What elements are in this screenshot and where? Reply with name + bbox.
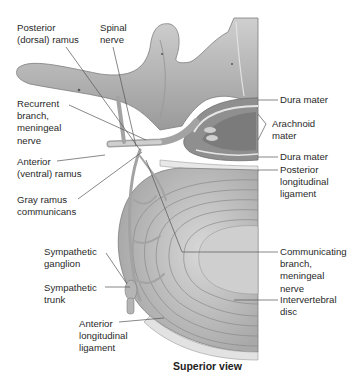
label-posterior-ramus: Posterior (dorsal) ramus	[17, 22, 79, 46]
label-arachnoid-mater: Arachnoid mater	[272, 118, 315, 142]
label-dura-mater-2: Dura mater	[280, 151, 328, 163]
label-anterior-longitudinal-ligament: Anterior longitudinal ligament	[79, 318, 128, 355]
label-posterior-longitudinal-ligament: Posterior longitudinal ligament	[280, 164, 329, 201]
label-communicating-branch: Communicating branch, meningeal nerve	[280, 246, 347, 295]
label-anterior-ramus: Anterior (ventral) ramus	[17, 156, 82, 180]
label-sympathetic-trunk: Sympathetic trunk	[44, 282, 97, 306]
label-sympathetic-ganglion: Sympathetic ganglion	[44, 246, 97, 270]
intervertebral-disc-shape	[118, 168, 258, 360]
sympathetic-chain-shape	[125, 280, 137, 314]
label-recurrent-branch: Recurrent branch, meningeal nerve	[17, 98, 61, 147]
label-spinal-nerve: Spinal nerve	[100, 22, 127, 46]
figure-caption: Superior view	[173, 360, 242, 372]
anatomy-figure: Posterior (dorsal) ramus Spinal nerve Re…	[0, 0, 356, 382]
label-dura-mater-1: Dura mater	[280, 94, 328, 106]
label-gray-ramus: Gray ramus communicans	[17, 194, 76, 218]
label-intervertebral-disc: Intervertebral disc	[280, 294, 337, 318]
